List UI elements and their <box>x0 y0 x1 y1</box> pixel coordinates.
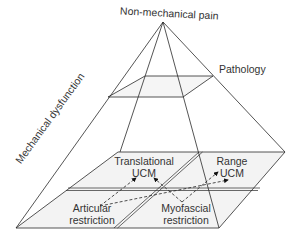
quadrant-translational-ucm: Translational UCM <box>114 155 174 179</box>
quadrant-range-ucm: Range UCM <box>212 155 252 179</box>
pathology-plane <box>108 76 213 97</box>
quadrant-myofascial-restriction: Myofascial restriction <box>154 202 218 226</box>
pathology-label: Pathology <box>219 63 266 75</box>
pyramid-diagram: Non-mechanical pain Pathology Mechanical… <box>0 0 294 240</box>
quadrant-articular-restriction: Articular restriction <box>62 202 122 226</box>
